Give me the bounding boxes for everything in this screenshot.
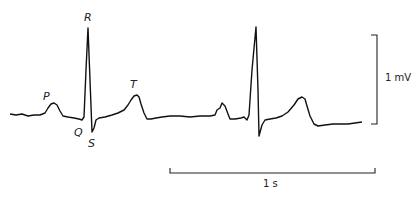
label-p-wave: P	[43, 90, 50, 103]
label-s-wave: S	[88, 137, 95, 150]
voltage-scale-label: 1 mV	[385, 72, 411, 83]
voltage-scale-bar	[371, 35, 377, 124]
time-scale-bar	[170, 168, 375, 173]
label-t-wave: T	[130, 78, 138, 91]
ecg-figure: P R Q S T 1 mV 1 s	[0, 0, 417, 197]
ecg-trace	[10, 27, 362, 136]
time-scale-label: 1 s	[263, 178, 278, 189]
label-r-wave: R	[84, 11, 92, 24]
label-q-wave: Q	[74, 126, 83, 139]
